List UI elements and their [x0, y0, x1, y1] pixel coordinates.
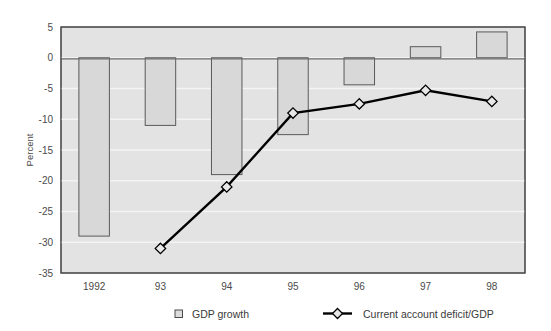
y-axis-tick-labels: 50-5-10-15-20-25-30-35: [39, 22, 54, 279]
diamond-line-marker-icon: [333, 309, 343, 319]
legend-label-gdp-growth: GDP growth: [192, 308, 249, 320]
bar: [410, 47, 440, 58]
x-tick-label: 93: [155, 281, 167, 292]
y-tick-label: -25: [39, 206, 54, 217]
bar: [477, 32, 507, 58]
y-tick-label: -15: [39, 145, 54, 156]
chart-svg: 50-5-10-15-20-25-30-35 1992939495969798 …: [0, 0, 551, 331]
x-tick-label: 97: [420, 281, 432, 292]
bar: [344, 58, 374, 85]
y-tick-label: -30: [39, 237, 54, 248]
y-tick-label: 5: [47, 22, 53, 33]
y-tick-label: -35: [39, 268, 54, 279]
bar: [79, 58, 109, 236]
legend: GDP growth Current account deficit/GDP: [175, 308, 494, 320]
y-tick-label: -20: [39, 175, 54, 186]
x-axis-tick-labels: 1992939495969798: [83, 281, 498, 292]
x-tick-label: 94: [221, 281, 233, 292]
x-tick-label: 96: [354, 281, 366, 292]
square-marker-icon: [175, 310, 183, 318]
bar: [211, 58, 241, 175]
y-tick-label: -5: [44, 83, 53, 94]
chart-container: 50-5-10-15-20-25-30-35 1992939495969798 …: [0, 0, 551, 331]
bar: [145, 58, 175, 126]
y-tick-label: 0: [47, 52, 53, 63]
y-tick-label: -10: [39, 114, 54, 125]
x-tick-label: 95: [287, 281, 299, 292]
x-tick-label: 1992: [83, 281, 106, 292]
x-tick-label: 98: [486, 281, 498, 292]
y-axis-title: Percent: [24, 133, 35, 166]
legend-label-current-account-deficit: Current account deficit/GDP: [363, 308, 494, 320]
bar: [278, 58, 308, 135]
